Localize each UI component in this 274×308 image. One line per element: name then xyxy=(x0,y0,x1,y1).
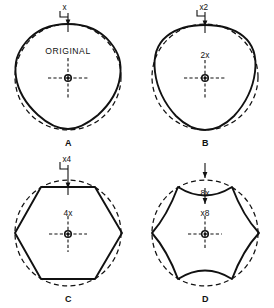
panel-c: 4x x4 C xyxy=(0,154,137,308)
panel-c-drawing: 4x x4 xyxy=(0,154,137,308)
panel-d-drawing: x8 8x xyxy=(137,154,274,308)
panel-a-callout-label: x xyxy=(63,3,67,12)
panel-c-callout-label: x4 xyxy=(63,155,72,164)
callout-b xyxy=(197,10,207,33)
panel-d-callout-label: 8x xyxy=(201,188,211,198)
panel-d-inner-label: x8 xyxy=(201,208,210,218)
panel-c-caption: C xyxy=(0,294,137,304)
panel-b: 2x x2 B xyxy=(137,0,274,154)
center-marker-d xyxy=(188,216,222,250)
panel-b-inner-label: 2x xyxy=(201,50,211,60)
center-marker-b xyxy=(184,60,226,99)
panel-a-caption: A xyxy=(0,138,137,148)
panel-b-drawing: 2x x2 xyxy=(137,0,274,154)
panel-b-callout-label: x2 xyxy=(200,3,209,12)
center-marker-c xyxy=(49,216,87,252)
callout-a xyxy=(60,11,70,32)
figure-root: ORIGINAL x A 2x xyxy=(0,0,274,308)
panel-d-caption: D xyxy=(137,294,274,304)
panel-a: ORIGINAL x A xyxy=(0,0,137,154)
panel-a-drawing: ORIGINAL x xyxy=(0,0,137,154)
panel-d: x8 8x D xyxy=(137,154,274,308)
panel-a-inner-label: ORIGINAL xyxy=(45,46,90,56)
panel-c-inner-label: 4x xyxy=(64,208,74,218)
center-marker-a xyxy=(48,58,88,98)
panel-b-caption: B xyxy=(137,138,274,148)
callout-c xyxy=(60,162,70,195)
